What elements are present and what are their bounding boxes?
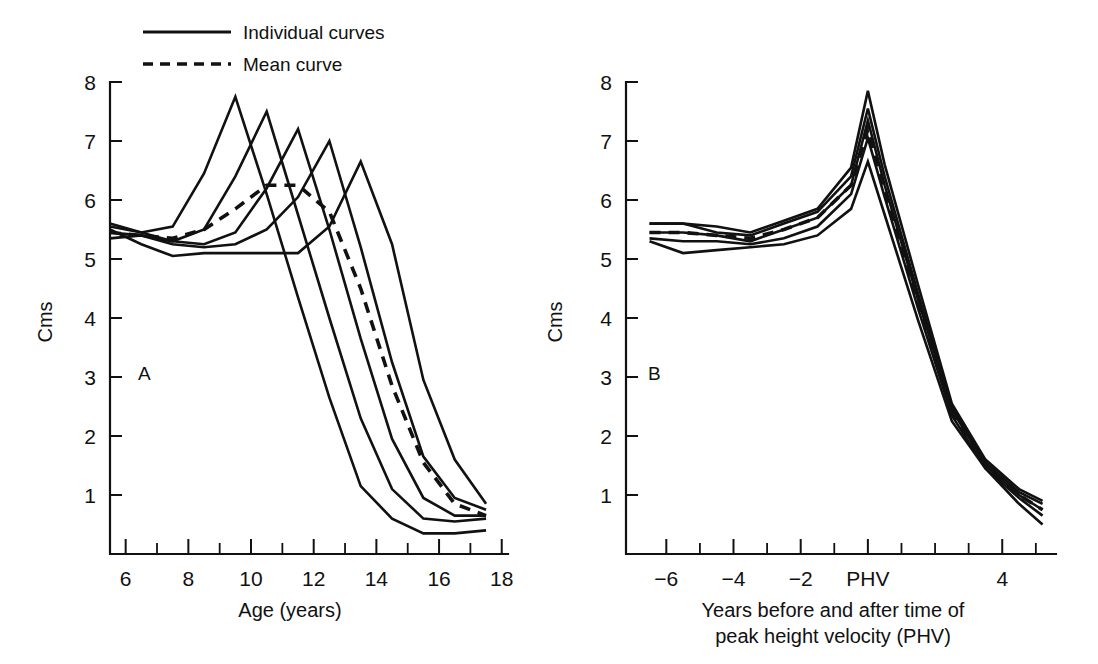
individual-curve xyxy=(650,109,1043,504)
x-tick-label: 16 xyxy=(427,567,450,590)
y-tick-label: 5 xyxy=(84,248,96,271)
individual-curve xyxy=(110,129,486,515)
individual-curve xyxy=(650,120,1043,509)
y-tick-label: 6 xyxy=(600,189,612,212)
axis-spine xyxy=(110,82,508,554)
individual-curve xyxy=(110,141,486,510)
axis-spine xyxy=(626,82,1056,554)
x-tick-label: 14 xyxy=(365,567,389,590)
figure-container: Individual curves Mean curve 12345678681… xyxy=(0,0,1098,664)
panel-b-label: B xyxy=(648,363,661,384)
x-tick-label: −4 xyxy=(722,567,746,590)
panel-b-x-axis-title-line1: Years before and after time of xyxy=(702,599,965,621)
y-tick-label: 4 xyxy=(84,307,96,330)
y-tick-label: 4 xyxy=(600,307,612,330)
y-tick-label: 5 xyxy=(600,248,612,271)
panel-b-y-axis-title: Cms xyxy=(544,301,566,342)
panel-a-y-axis-title: Cms xyxy=(34,301,56,342)
y-tick-label: 7 xyxy=(600,130,612,153)
individual-curve xyxy=(650,162,1043,525)
panel-b-axes: 12345678−6−4−2PHV4 xyxy=(600,71,1056,590)
y-tick-label: 2 xyxy=(600,425,612,448)
height-velocity-figure: Individual curves Mean curve 12345678681… xyxy=(0,0,1098,664)
y-tick-label: 1 xyxy=(600,484,612,507)
panel-b-x-axis-title-line2: peak height velocity (PHV) xyxy=(715,625,951,647)
y-tick-label: 8 xyxy=(84,71,96,94)
y-tick-label: 3 xyxy=(84,366,96,389)
panel-a: 12345678681012141618 A Cms Age (years) xyxy=(34,71,513,621)
x-tick-label: 10 xyxy=(239,567,262,590)
y-tick-label: 7 xyxy=(84,130,96,153)
panel-b-curves xyxy=(650,91,1043,525)
individual-curve xyxy=(650,91,1043,501)
legend: Individual curves Mean curve xyxy=(143,22,385,75)
y-tick-label: 8 xyxy=(600,71,612,94)
x-tick-label: PHV xyxy=(846,567,889,590)
x-tick-label: −6 xyxy=(654,567,678,590)
panel-a-x-axis-title: Age (years) xyxy=(238,599,341,621)
panel-a-curves xyxy=(110,97,486,534)
x-tick-label: −2 xyxy=(789,567,813,590)
y-tick-label: 1 xyxy=(84,484,96,507)
y-tick-label: 6 xyxy=(84,189,96,212)
legend-mean-curve-label: Mean curve xyxy=(243,54,342,75)
y-tick-label: 2 xyxy=(84,425,96,448)
panel-b: 12345678−6−4−2PHV4 B Cms Years before an… xyxy=(544,71,1056,647)
legend-individual-curves-label: Individual curves xyxy=(243,22,385,43)
mean-curve xyxy=(650,129,1043,510)
y-tick-label: 3 xyxy=(600,366,612,389)
x-tick-label: 6 xyxy=(120,567,132,590)
individual-curve xyxy=(110,112,486,522)
x-tick-label: 4 xyxy=(996,567,1008,590)
panel-a-label: A xyxy=(138,363,151,384)
x-tick-label: 8 xyxy=(183,567,195,590)
x-tick-label: 12 xyxy=(302,567,325,590)
x-tick-label: 18 xyxy=(490,567,513,590)
